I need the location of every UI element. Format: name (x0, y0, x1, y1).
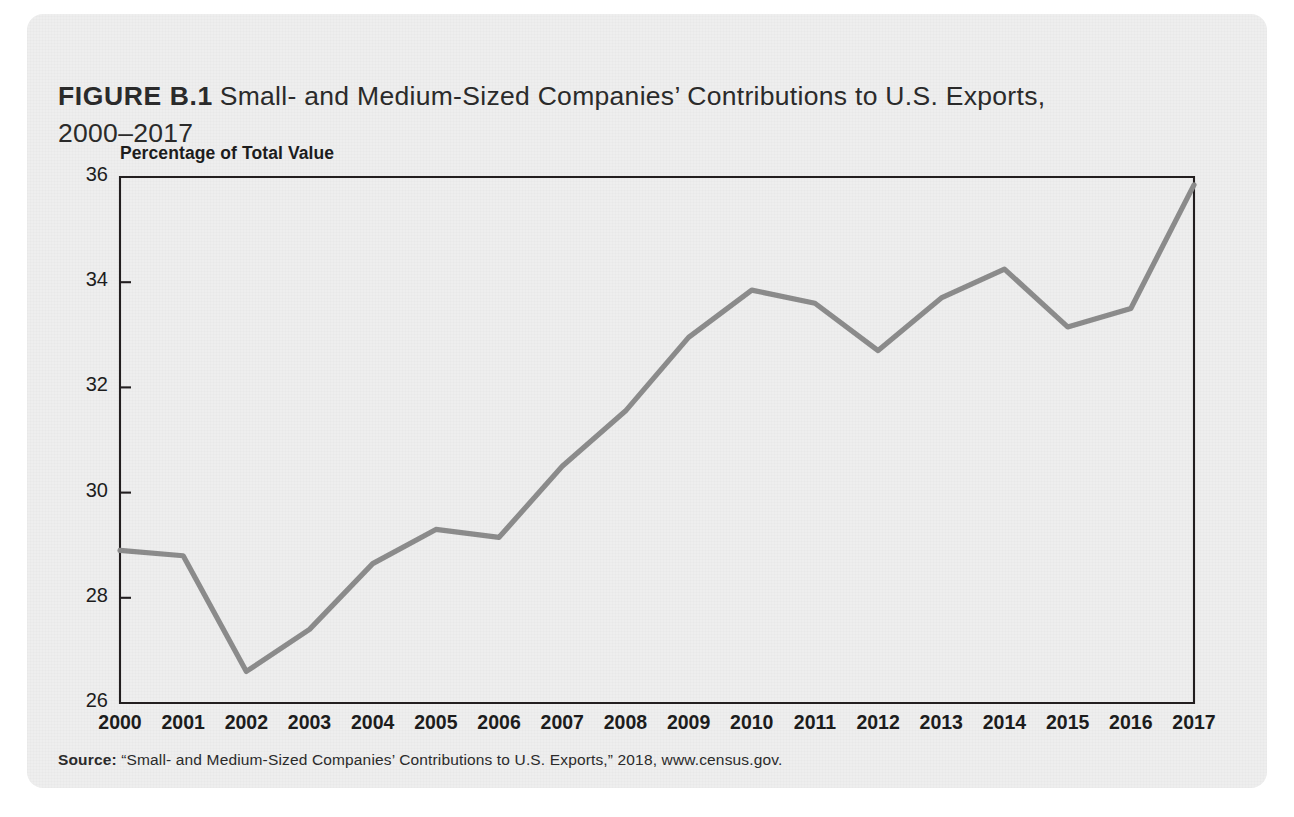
x-tick-label: 2007 (530, 711, 594, 734)
figure-card: FIGURE B.1Small- and Medium-Sized Compan… (27, 14, 1267, 788)
y-tick-label: 34 (68, 268, 108, 291)
x-tick-label: 2010 (720, 711, 784, 734)
x-tick-label: 2000 (88, 711, 152, 734)
y-axis-ticks (120, 282, 131, 598)
x-tick-label: 2017 (1162, 711, 1226, 734)
x-tick-label: 2011 (783, 711, 847, 734)
source-text: “Small- and Medium-Sized Companies’ Cont… (121, 751, 782, 768)
figure-label: FIGURE B.1 (58, 81, 213, 111)
axis-frame (120, 177, 1194, 703)
x-tick-label: 2009 (657, 711, 721, 734)
y-tick-label: 26 (68, 689, 108, 712)
y-tick-label: 30 (68, 479, 108, 502)
y-tick-label: 36 (68, 163, 108, 186)
x-tick-label: 2005 (404, 711, 468, 734)
y-tick-label: 28 (68, 584, 108, 607)
data-line (120, 185, 1194, 672)
x-tick-label: 2015 (1036, 711, 1100, 734)
x-tick-label: 2003 (278, 711, 342, 734)
data-series-line (120, 185, 1194, 672)
x-tick-label: 2001 (151, 711, 215, 734)
y-axis-title: Percentage of Total Value (120, 143, 334, 164)
x-tick-label: 2016 (1099, 711, 1163, 734)
x-tick-label: 2002 (214, 711, 278, 734)
figure-title: FIGURE B.1Small- and Medium-Sized Compan… (58, 41, 1218, 152)
x-tick-label: 2006 (467, 711, 531, 734)
x-tick-label: 2014 (972, 711, 1036, 734)
source-line: Source: “Small- and Medium-Sized Compani… (58, 751, 782, 769)
x-tick-label: 2013 (909, 711, 973, 734)
y-tick-label: 32 (68, 373, 108, 396)
x-tick-label: 2012 (846, 711, 910, 734)
x-tick-label: 2008 (593, 711, 657, 734)
source-label: Source: (58, 751, 117, 768)
x-tick-label: 2004 (341, 711, 405, 734)
